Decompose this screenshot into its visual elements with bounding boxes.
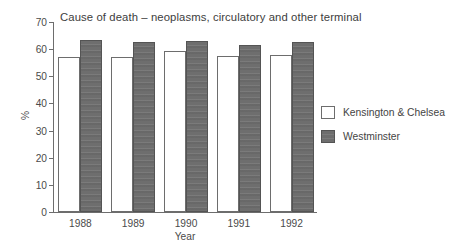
x-tick-label: 1991: [227, 218, 250, 229]
legend-item-westminster: Westminster: [321, 129, 467, 143]
bar-1989-kensington-chelsea: [111, 57, 133, 212]
bar-group: [270, 22, 314, 212]
y-axis-line: [53, 22, 54, 213]
y-tick-mark: [49, 158, 53, 159]
bar-1991-kensington-chelsea: [217, 56, 239, 212]
x-tick-label: 1988: [69, 218, 92, 229]
x-tick-label: 1989: [122, 218, 145, 229]
bar-group: [58, 22, 102, 212]
dark-square-icon: [321, 130, 335, 143]
bar-1991-westminster: [239, 45, 261, 212]
x-tick-label: 1992: [280, 218, 303, 229]
y-tick-label: 0: [41, 207, 47, 218]
y-tick-label: 20: [36, 152, 47, 163]
y-tick-label: 70: [36, 17, 47, 28]
x-axis-line: [53, 212, 317, 213]
plot-area: 010203040506070 19881989199019911992: [53, 22, 317, 213]
y-tick-mark: [49, 103, 53, 104]
bar-1988-kensington-chelsea: [58, 57, 80, 212]
x-axis-title: Year: [175, 231, 196, 242]
y-tick-label: 40: [36, 98, 47, 109]
bar-group: [111, 22, 155, 212]
bar-1990-westminster: [186, 41, 208, 212]
bar-1989-westminster: [133, 42, 155, 212]
y-tick-mark: [49, 185, 53, 186]
y-tick-mark: [49, 131, 53, 132]
y-tick-mark: [49, 22, 53, 23]
white-square-icon: [321, 106, 335, 119]
y-tick-mark: [49, 49, 53, 50]
x-tick-label: 1990: [175, 218, 198, 229]
bar-1992-westminster: [292, 42, 314, 212]
legend-item-kensington-chelsea: Kensington & Chelsea: [321, 105, 467, 119]
y-tick-mark: [49, 76, 53, 77]
y-tick-label: 30: [36, 125, 47, 136]
bar-chart-figure: Cause of death – neoplasms, circulatory …: [0, 0, 468, 252]
chart-legend: Kensington & ChelseaWestminster: [321, 105, 467, 153]
bar-group: [164, 22, 208, 212]
y-axis-title: %: [20, 111, 31, 120]
y-tick-label: 50: [36, 71, 47, 82]
y-tick-label: 10: [36, 179, 47, 190]
bar-1992-kensington-chelsea: [270, 55, 292, 212]
y-tick-mark: [49, 212, 53, 213]
y-tick-label: 60: [36, 44, 47, 55]
legend-label: Westminster: [343, 131, 400, 142]
bar-1988-westminster: [80, 40, 102, 212]
bar-group: [217, 22, 261, 212]
bar-1990-kensington-chelsea: [164, 51, 186, 212]
legend-label: Kensington & Chelsea: [343, 107, 445, 118]
